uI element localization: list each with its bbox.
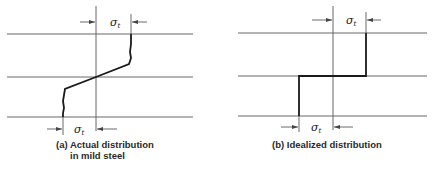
figure-b-idealized-distribution: σt σt (238, 6, 427, 135)
caption-b-line1: (b) Idealized distribution (272, 139, 382, 150)
sigma-top-label: σt (346, 14, 357, 28)
sigma-top-label: σt (110, 16, 121, 30)
sigma-bottom-label: σt (74, 123, 85, 137)
stress-curve (63, 34, 131, 117)
caption-a-line2: in mild steel (56, 150, 154, 161)
caption-a-line1: (a) Actual distribution (56, 139, 154, 150)
sigma-bottom-label: σt (311, 121, 322, 135)
caption-a: (a) Actual distribution in mild steel (56, 139, 154, 161)
caption-b: (b) Idealized distribution (272, 139, 382, 150)
figure-a-actual-distribution: σt σt (7, 6, 193, 137)
